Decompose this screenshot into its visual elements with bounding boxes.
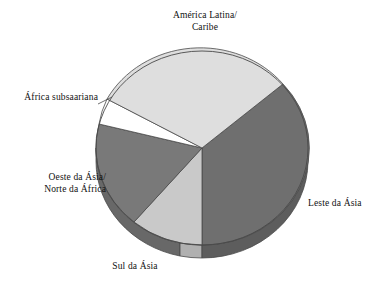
pie-chart-graphic (0, 0, 376, 289)
pie-chart-figure: América Latina/ Caribe África subsaarian… (0, 0, 376, 289)
pie-top-face (96, 48, 310, 245)
